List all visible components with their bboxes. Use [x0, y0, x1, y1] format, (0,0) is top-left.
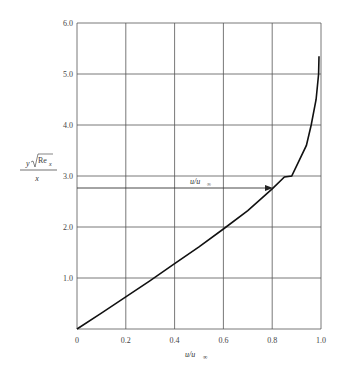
grid — [77, 23, 321, 329]
svg-text:3.0: 3.0 — [63, 172, 73, 181]
origin-label: 0 — [75, 336, 79, 345]
svg-text:x: x — [34, 174, 39, 183]
svg-text:∞: ∞ — [203, 354, 208, 360]
x-axis-label: u/u ∞ — [185, 350, 208, 360]
svg-text:6.0: 6.0 — [63, 19, 73, 28]
svg-text:2.0: 2.0 — [63, 223, 73, 232]
x-tick-labels: 0.20.40.60.81.0 — [121, 336, 326, 345]
y-axis-label: y Re x x — [20, 154, 57, 183]
svg-text:1.0: 1.0 — [316, 336, 326, 345]
svg-text:∞: ∞ — [207, 181, 211, 187]
svg-text:x: x — [48, 161, 52, 167]
svg-text:0.6: 0.6 — [218, 336, 228, 345]
svg-text:Re: Re — [38, 156, 47, 165]
svg-text:u/u: u/u — [190, 177, 200, 186]
y-tick-labels: 1.02.03.04.05.06.0 — [63, 19, 73, 283]
chart: 1.02.03.04.05.06.0 0.20.40.60.81.0 0 y R… — [0, 0, 345, 374]
svg-text:0.8: 0.8 — [267, 336, 277, 345]
svg-text:4.0: 4.0 — [63, 121, 73, 130]
svg-text:5.0: 5.0 — [63, 70, 73, 79]
svg-text:1.0: 1.0 — [63, 274, 73, 283]
svg-text:0.4: 0.4 — [170, 336, 180, 345]
svg-text:0.2: 0.2 — [121, 336, 131, 345]
svg-text:y: y — [25, 159, 30, 168]
velocity-profile-curve — [77, 56, 319, 329]
svg-text:u/u: u/u — [185, 350, 195, 359]
